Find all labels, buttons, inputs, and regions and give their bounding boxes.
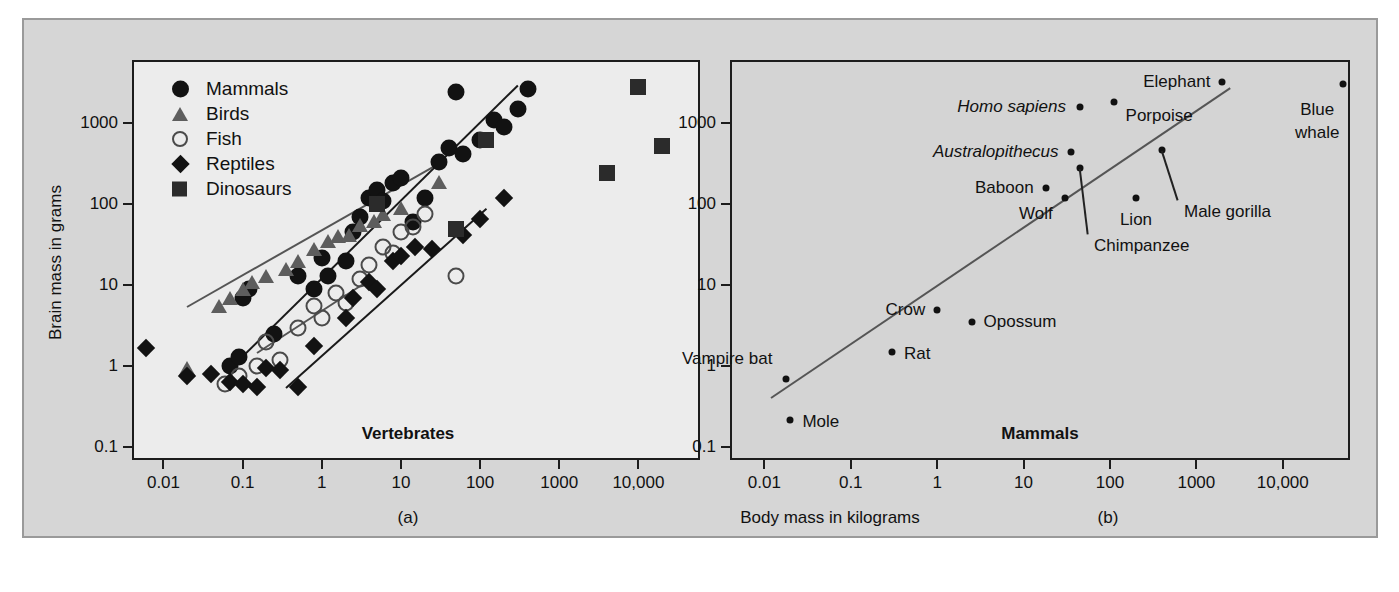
legend-label: Reptiles — [206, 153, 275, 175]
y-tick-label: 10 — [66, 275, 118, 295]
y-tick — [123, 365, 132, 367]
point-label: Male gorilla — [1184, 202, 1271, 222]
y-tick-label: 1000 — [664, 113, 716, 133]
point-label: Elephant — [1143, 72, 1210, 92]
figure-root: Brain mass in grams Mammals Birds Fish R… — [0, 0, 1399, 592]
x-tick — [162, 460, 164, 469]
data-point-birds — [258, 269, 274, 283]
legend-item-fish: Fish — [172, 126, 372, 151]
x-tick — [763, 460, 765, 469]
x-tick — [1195, 460, 1197, 469]
x-tick-label: 1 — [317, 473, 326, 493]
data-point-mammals — [430, 154, 447, 171]
data-point-fish — [258, 333, 275, 350]
x-tick-label: 1 — [932, 473, 941, 493]
data-point-australopithecus — [1067, 149, 1074, 156]
x-tick-label: 1000 — [540, 473, 578, 493]
x-tick — [558, 460, 560, 469]
x-tick-label: 0.01 — [748, 473, 781, 493]
y-tick-label: 1 — [66, 356, 118, 376]
data-point-fish — [416, 206, 433, 223]
data-point-blue-whale — [1340, 81, 1347, 88]
x-tick-label: 0.1 — [839, 473, 863, 493]
y-tick — [721, 203, 730, 205]
x-tick-label: 1000 — [1177, 473, 1215, 493]
data-point-dinosaurs — [599, 165, 615, 181]
point-label: Baboon — [975, 178, 1034, 198]
legend-label: Fish — [206, 128, 242, 150]
data-point-mammals — [306, 280, 323, 297]
x-tick-label: 0.1 — [231, 473, 255, 493]
point-label: Blue — [1300, 100, 1334, 120]
reptiles-diamond-icon — [171, 154, 189, 172]
data-point-birds — [290, 254, 306, 268]
data-point-vampire-bat — [783, 375, 790, 382]
data-point-dinosaurs — [478, 132, 494, 148]
y-tick — [721, 284, 730, 286]
data-point-fish — [361, 256, 378, 273]
x-tick — [850, 460, 852, 469]
y-tick-label: 100 — [66, 194, 118, 214]
x-tick-label: 10,000 — [1257, 473, 1309, 493]
x-tick — [637, 460, 639, 469]
panel-b-title: Mammals — [1001, 424, 1078, 444]
data-point-fish — [313, 309, 330, 326]
panel-b-mammals: Mammals (b) 0.010.1110100100010,0000.111… — [700, 0, 1399, 592]
birds-triangle-icon — [172, 107, 188, 121]
y-tick — [123, 122, 132, 124]
data-point-mammals — [519, 81, 536, 98]
x-tick — [936, 460, 938, 469]
data-point-dinosaurs — [448, 221, 464, 237]
data-point-birds — [244, 275, 260, 289]
data-point-homo-sapiens — [1077, 103, 1084, 110]
legend-label: Dinosaurs — [206, 178, 292, 200]
data-point-mammals — [416, 189, 433, 206]
data-point-mammals — [454, 145, 471, 162]
y-tick — [123, 446, 132, 448]
fish-open-circle-icon — [172, 131, 188, 147]
y-axis-title: Brain mass in grams — [46, 185, 66, 340]
point-label: Wolf — [1019, 204, 1053, 224]
mammals-circle-icon — [172, 80, 189, 97]
data-point-rat — [889, 349, 896, 356]
x-tick — [479, 460, 481, 469]
y-tick-label: 1000 — [66, 113, 118, 133]
x-tick — [242, 460, 244, 469]
data-point-wolf — [1061, 194, 1068, 201]
data-point-mammals — [320, 268, 337, 285]
data-point-mammals — [495, 118, 512, 135]
y-tick — [721, 446, 730, 448]
data-point-lion — [1132, 194, 1139, 201]
data-point-birds — [393, 201, 409, 215]
y-tick-label: 10 — [664, 275, 716, 295]
x-tick-label: 100 — [1096, 473, 1124, 493]
legend-item-mammals: Mammals — [172, 76, 372, 101]
x-tick — [321, 460, 323, 469]
x-tick-label: 10 — [391, 473, 410, 493]
point-label: Opossum — [984, 312, 1057, 332]
legend-item-reptiles: Reptiles — [172, 151, 372, 176]
data-point-mammals — [509, 100, 526, 117]
data-point-birds — [431, 175, 447, 189]
panel-a-legend: Mammals Birds Fish Reptiles Dinosaurs — [172, 76, 372, 201]
legend-label: Birds — [206, 103, 249, 125]
x-tick-label: 10 — [1014, 473, 1033, 493]
x-tick — [400, 460, 402, 469]
x-tick — [1109, 460, 1111, 469]
data-point-baboon — [1042, 184, 1049, 191]
panel-a-vertebrates: Brain mass in grams Mammals Birds Fish R… — [0, 0, 700, 592]
data-point-mole — [787, 416, 794, 423]
x-tick — [1023, 460, 1025, 469]
x-axis-title: Body mass in kilograms — [740, 508, 920, 528]
point-label: Homo sapiens — [957, 97, 1066, 117]
point-label: Lion — [1120, 210, 1152, 230]
data-point-dinosaurs — [654, 138, 670, 154]
legend-label: Mammals — [206, 78, 288, 100]
point-label: Australopithecus — [933, 142, 1059, 162]
data-point-crow — [934, 306, 941, 313]
x-tick — [1282, 460, 1284, 469]
data-point-mammals — [337, 252, 354, 269]
point-label: Mole — [802, 412, 839, 432]
data-point-dinosaurs — [630, 79, 646, 95]
y-tick — [123, 203, 132, 205]
